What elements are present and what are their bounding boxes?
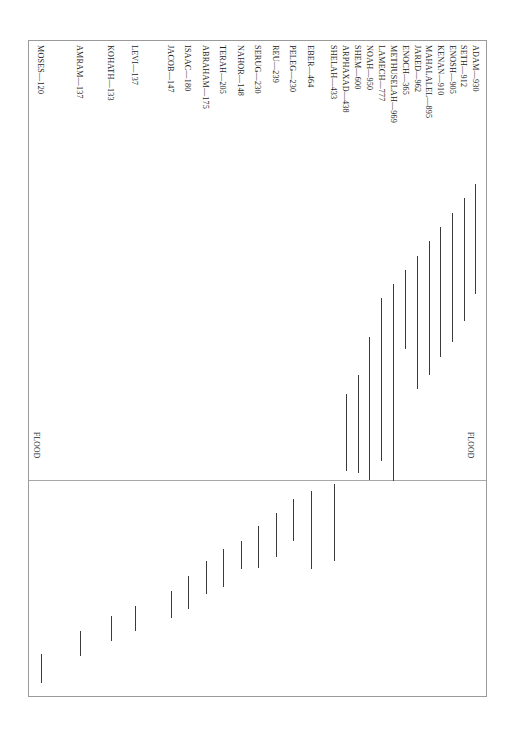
category-label: SETH—912 — [459, 45, 467, 87]
lifespan-bar — [311, 491, 312, 569]
lifespan-bar — [111, 616, 112, 641]
category-label: KOHATH—133 — [106, 45, 114, 101]
category-label: ABRAHAM—175 — [201, 45, 209, 109]
category-label: ARPHAXAD—438 — [341, 45, 349, 113]
lifespan-bar — [405, 270, 406, 349]
flood-reference-line — [29, 480, 486, 481]
category-label: PELEG—230 — [288, 45, 296, 92]
lifespan-bar — [41, 654, 42, 683]
category-label: AMRAM—137 — [75, 45, 83, 99]
flood-label-right: FLOOD — [466, 432, 474, 458]
lifespan-bar — [475, 184, 476, 294]
lifespan-bar — [452, 213, 453, 342]
category-label: MAHALALEL—895 — [424, 45, 432, 118]
category-label: ENOSH—905 — [448, 45, 456, 94]
category-label: TERAH—205 — [218, 45, 226, 94]
lifespan-bar — [464, 198, 465, 321]
chart-plot-frame — [28, 40, 487, 697]
lifespan-bar — [171, 591, 172, 618]
category-label: NOAH—950 — [365, 45, 373, 90]
lifespan-bar — [135, 606, 136, 631]
lifespan-bar — [276, 513, 277, 557]
category-label: JACOB—147 — [166, 45, 174, 93]
category-label: SERUG—230 — [253, 45, 261, 94]
lifespan-bar — [334, 484, 335, 561]
lifespan-bar — [223, 549, 224, 587]
lifespan-bar — [241, 541, 242, 569]
category-label: METHUSELAH—969 — [389, 45, 397, 123]
category-label: ADAM—930 — [471, 45, 479, 92]
category-label: ISAAC—180 — [183, 45, 191, 91]
category-label: JARED—962 — [413, 45, 421, 92]
lifespan-bar — [393, 284, 394, 481]
lifespan-bar — [381, 298, 382, 461]
category-label: NAHOR—148 — [236, 45, 244, 96]
lifespan-bar — [358, 375, 359, 473]
lifespan-bar — [293, 499, 294, 541]
figure-page: ADAM—930SETH—912ENOSH—905KENAN—910MAHALA… — [0, 0, 510, 738]
lifespan-bar — [429, 241, 430, 375]
category-label: REU—239 — [271, 45, 279, 83]
lifespan-bar — [80, 631, 81, 656]
category-label: LAMECH—777 — [377, 45, 385, 102]
lifespan-bar — [369, 337, 370, 480]
category-label: SHELAH—433 — [329, 45, 337, 99]
lifespan-bar — [346, 394, 347, 471]
category-label: MOSES—120 — [36, 45, 44, 94]
lifespan-bar — [188, 576, 189, 609]
category-label: LEVI—137 — [130, 45, 138, 85]
lifespan-bar — [206, 561, 207, 594]
lifespan-bar — [440, 227, 441, 357]
lifespan-bar — [417, 256, 418, 389]
lifespan-bar — [258, 526, 259, 568]
category-label: SHEM—600 — [353, 45, 361, 89]
category-label: ENOCH—365 — [401, 45, 409, 95]
category-label: EBER—464 — [306, 45, 314, 88]
flood-label-left: FLOOD — [32, 432, 40, 458]
category-label: KENAN—910 — [436, 45, 444, 95]
